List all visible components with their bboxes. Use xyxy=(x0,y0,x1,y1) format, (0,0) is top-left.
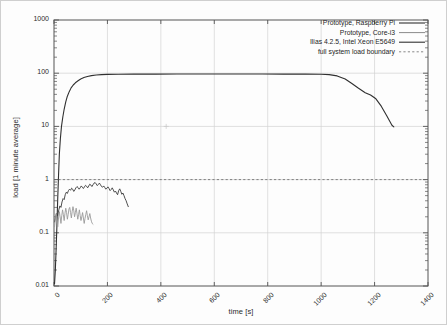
legend-label-1: Prototype, Core-i3 xyxy=(181,29,395,36)
y-tick-label: 1000 xyxy=(7,15,49,22)
data-series-group xyxy=(55,74,394,284)
series-line-2 xyxy=(55,207,93,227)
series-line-1 xyxy=(55,183,129,222)
series-line-0 xyxy=(55,74,394,284)
y-tick-label: 0.1 xyxy=(7,228,49,235)
y-tick-label: 0.01 xyxy=(7,281,49,288)
plot-frame xyxy=(54,20,428,286)
gridlines xyxy=(54,20,428,286)
legend-label-2: Ilias 4.2.5, Intel Xeon E5649 xyxy=(181,38,395,45)
legend-label-3: full system load boundary xyxy=(181,48,395,55)
load-chart-figure: load [1 minute average] time [s] 0.010.1… xyxy=(0,0,447,325)
y-tick-label: 1 xyxy=(7,175,49,182)
tick-marks xyxy=(54,20,428,286)
legend-line-samples xyxy=(399,23,425,52)
y-tick-label: 10 xyxy=(7,121,49,128)
y-tick-label: 100 xyxy=(7,68,49,75)
legend-label-0: Prototype, Raspberry Pi xyxy=(181,19,395,26)
